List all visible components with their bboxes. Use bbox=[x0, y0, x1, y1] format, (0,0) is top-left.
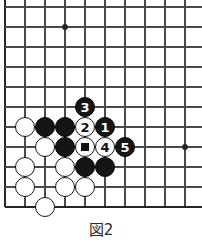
stone-move-number: 1 bbox=[96, 118, 114, 136]
stone-black bbox=[95, 157, 115, 177]
stone-black bbox=[55, 137, 75, 157]
stone-move-number: 3 bbox=[76, 98, 94, 116]
move-stone-2: 2 bbox=[75, 117, 95, 137]
move-stone-5: 5 bbox=[115, 137, 135, 157]
square-mark-icon bbox=[81, 143, 89, 151]
stone-white bbox=[75, 137, 95, 157]
stone-move-number: 5 bbox=[116, 138, 134, 156]
stone-move-number: 4 bbox=[96, 138, 114, 156]
stone-black bbox=[75, 157, 95, 177]
figure-caption: 図2 bbox=[0, 216, 202, 244]
stone-white bbox=[15, 157, 35, 177]
star-point-lower bbox=[182, 144, 188, 150]
stone-white bbox=[15, 117, 35, 137]
stone-black bbox=[55, 117, 75, 137]
stone-move-number: 2 bbox=[76, 118, 94, 136]
stone-white bbox=[75, 177, 95, 197]
star-point-upper bbox=[62, 24, 68, 30]
stone-white bbox=[35, 197, 55, 217]
move-stone-4: 4 bbox=[95, 137, 115, 157]
move-stone-3: 3 bbox=[75, 97, 95, 117]
stone-white bbox=[35, 137, 55, 157]
stone-black bbox=[35, 117, 55, 137]
move-stone-1: 1 bbox=[95, 117, 115, 137]
go-diagram-figure: 32145 図2 bbox=[0, 0, 202, 244]
stone-white bbox=[55, 157, 75, 177]
stone-white bbox=[15, 177, 35, 197]
stone-white bbox=[55, 177, 75, 197]
